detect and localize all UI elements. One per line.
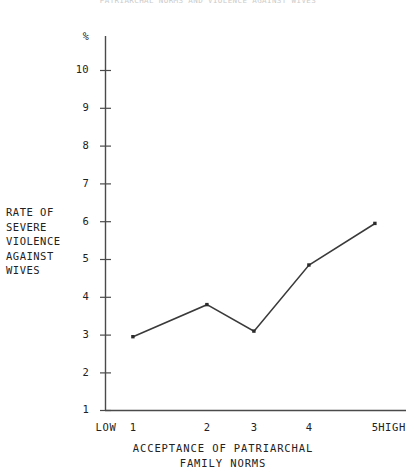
y-tick-label-10: 10 (63, 64, 89, 75)
data-series-line (133, 224, 375, 337)
y-tick-label-4: 4 (63, 291, 89, 302)
x-tick-label-5: 5 (355, 421, 395, 433)
y-tick-label-3: 3 (63, 329, 89, 340)
y-axis-title: RATE OF SEVERE VIOLENCE AGAINST WIVES (6, 205, 80, 278)
x-tick-label-2: 2 (187, 421, 227, 433)
y-tick-label-7: 7 (63, 178, 89, 189)
x-axis-title: ACCEPTANCE OF PATRIARCHAL FAMILY NORMS (0, 441, 416, 471)
y-tick-label-2: 2 (63, 367, 89, 378)
x-tick-label-3: 3 (234, 421, 274, 433)
y-tick-label-9: 9 (63, 102, 89, 113)
y-axis-unit-label: % (63, 31, 89, 42)
chart-plot-area: % 10 9 8 7 6 5 4 3 2 1 LOW HIGH 1 2 3 4 … (0, 0, 416, 475)
y-tick-label-1: 1 (63, 404, 89, 415)
x-tick-label-4: 4 (289, 421, 329, 433)
x-tick-label-1: 1 (113, 421, 153, 433)
y-tick-label-8: 8 (63, 140, 89, 151)
